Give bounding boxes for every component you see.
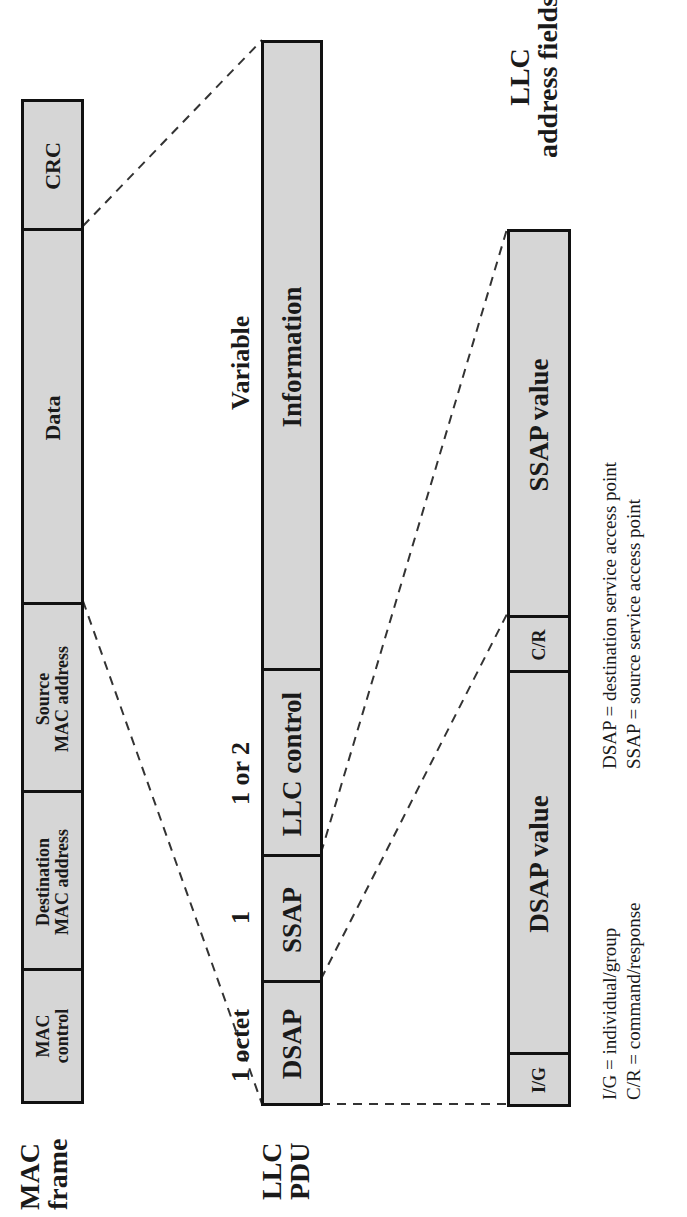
llc-field-llc-control: LLC control (264, 668, 320, 856)
mac-field-data: Data (24, 228, 81, 604)
legend-cr: C/R = command/response (622, 902, 646, 1100)
size-label-information: Variable (226, 316, 256, 410)
llc-field-ssap: SSAP (264, 854, 320, 982)
size-label-ssap: 1 (226, 911, 256, 924)
llc-address-fields: SSAP value C/R DSAP value I/G (507, 229, 571, 1107)
mac-field-destination-address: Destination MAC address (24, 790, 81, 970)
connector-lines (0, 0, 687, 1217)
connector-ssap-to-cr (321, 614, 507, 979)
mac-field-mac-control: MAC control (24, 968, 81, 1101)
mac-field-source-address: Source MAC address (24, 602, 81, 792)
legend-right: DSAP = destination service access point … (598, 462, 646, 769)
addr-field-cr: C/R (510, 615, 568, 672)
connector-llc-control-to-ssap-value-top (321, 229, 507, 853)
llc-field-information: Information (264, 43, 320, 670)
mac-frame-title: MAC frame (16, 1138, 72, 1210)
addr-field-ig: I/G (510, 1052, 568, 1105)
legend-ig: I/G = individual/group (598, 902, 622, 1100)
llc-field-dsap: DSAP (264, 980, 320, 1104)
llc-address-fields-title: LLC address fields (506, 0, 562, 158)
size-label-dsap: 1 octet (226, 1009, 256, 1082)
legend-left: I/G = individual/group C/R = command/res… (598, 902, 646, 1100)
addr-field-ssap-value: SSAP value (510, 232, 568, 617)
legend-ssap: SSAP = source service access point (622, 462, 646, 769)
llc-pdu: Information LLC control SSAP DSAP (261, 40, 323, 1106)
legend-dsap: DSAP = destination service access point (598, 462, 622, 769)
size-label-llc-control: 1 or 2 (226, 742, 256, 805)
mac-field-crc: CRC (24, 102, 81, 230)
connector-crc-to-info-top (83, 40, 262, 226)
llc-pdu-title: LLC PDU (258, 1142, 314, 1200)
mac-frame: CRC Data Source MAC address Destination … (21, 99, 84, 1104)
addr-field-dsap-value: DSAP value (510, 670, 568, 1054)
